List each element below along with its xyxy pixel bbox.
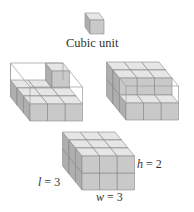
length-value: 3 [54, 175, 60, 189]
height-label: h = 2 [137, 158, 162, 170]
width-label: w = 3 [96, 191, 123, 203]
width-value: 3 [117, 190, 123, 204]
width-eq: = [104, 190, 117, 204]
partial-fill-1 [11, 63, 83, 121]
cubic-units-diagram [0, 0, 194, 212]
partial-fill-2 [107, 62, 179, 120]
length-label: l = 3 [38, 176, 60, 188]
length-eq: = [41, 175, 54, 189]
full-box [63, 132, 135, 190]
height-eq: = [143, 157, 156, 171]
unit-cube-label: Cubic unit [66, 37, 118, 49]
unit-cube [85, 13, 104, 34]
height-value: 2 [156, 157, 162, 171]
width-var: w [96, 190, 104, 204]
